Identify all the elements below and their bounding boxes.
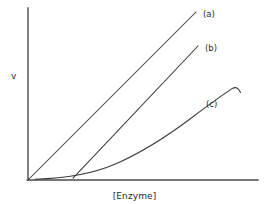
curve-a-label: (a) — [203, 10, 215, 19]
curve-b-label: (b) — [205, 44, 217, 53]
plot-canvas — [0, 0, 269, 204]
y-axis-label: v — [11, 72, 16, 81]
curve-b — [73, 46, 198, 178]
curve-c-label: (c) — [206, 100, 217, 109]
curve-a — [29, 12, 197, 180]
series-group — [29, 12, 241, 180]
x-axis-label: [Enzyme] — [0, 192, 269, 201]
enzyme-velocity-figure: v [Enzyme] (a) (b) (c) — [0, 0, 269, 204]
